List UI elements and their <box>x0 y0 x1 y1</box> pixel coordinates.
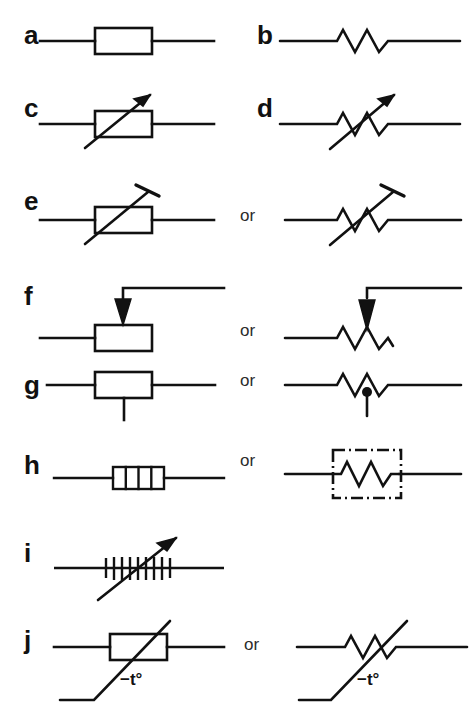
symbol-row-j: j −t° or −t° <box>0 0 471 100</box>
row-label-h: h <box>24 452 40 478</box>
figure-sheet: a b c <box>0 0 471 712</box>
or-label-e: or <box>240 207 255 224</box>
symbol-potentiometer-box-f <box>38 280 228 355</box>
row-label-j: j <box>24 627 31 653</box>
row-label-e: e <box>24 188 38 214</box>
row-label-g: g <box>24 372 40 398</box>
symbol-wirewound-variable-resistor-i <box>52 528 232 606</box>
thermistor-annotation-right: −t° <box>357 670 380 689</box>
symbol-thermistor-ntc-box-j: −t° <box>52 612 232 710</box>
symbol-preset-resistor-box-e <box>38 178 218 253</box>
symbol-resistor-network-dashdot-box-h <box>283 440 465 510</box>
or-label-f: or <box>240 322 255 339</box>
symbol-resistor-network-segmented-box-h <box>52 452 227 502</box>
or-label-h: or <box>240 452 255 469</box>
symbol-thermistor-ntc-zigzag-j: −t° <box>295 612 471 710</box>
thermistor-annotation-left: −t° <box>120 670 143 689</box>
row-label-i: i <box>24 540 31 566</box>
or-label-j: or <box>244 636 259 653</box>
symbol-tapped-resistor-box-g <box>45 368 220 428</box>
symbol-potentiometer-zigzag-f <box>283 280 465 355</box>
or-label-g: or <box>240 372 255 389</box>
symbol-tapped-resistor-zigzag-g <box>283 368 465 428</box>
symbol-preset-resistor-zigzag-e <box>283 178 465 253</box>
row-label-f: f <box>24 283 33 309</box>
